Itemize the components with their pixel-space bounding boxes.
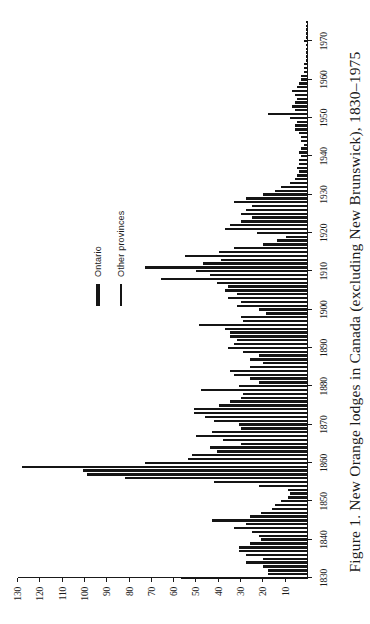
x-tick-label: 1930: [319, 185, 329, 203]
bar: [304, 63, 308, 65]
bar: [246, 209, 308, 211]
bar: [299, 159, 308, 161]
bar: [230, 335, 308, 337]
y-tick-mark: [84, 578, 85, 582]
bar: [241, 213, 308, 215]
bar: [292, 90, 308, 92]
bar: [225, 289, 308, 291]
bar: [87, 473, 308, 475]
y-tick-label: 120: [35, 587, 45, 601]
bar: [295, 109, 308, 111]
x-tick-label: 1840: [319, 531, 329, 549]
x-tick-mark: [308, 79, 312, 80]
y-tick-label: 110: [58, 587, 68, 600]
bar: [188, 458, 308, 460]
y-tick-mark: [151, 578, 152, 582]
x-tick-label: 1970: [319, 32, 329, 50]
bar: [297, 167, 308, 169]
bar: [268, 569, 308, 571]
bar: [299, 151, 308, 153]
bar: [234, 374, 308, 376]
bar: [234, 247, 308, 249]
bar: [306, 36, 308, 38]
bar: [295, 94, 308, 96]
x-tick-label: 1910: [319, 262, 329, 280]
bar: [212, 519, 308, 521]
bar: [192, 454, 308, 456]
bar: [125, 477, 308, 479]
bar: [304, 144, 308, 146]
x-tick-mark: [308, 155, 312, 156]
bar: [257, 232, 308, 234]
x-tick-mark: [308, 462, 312, 463]
bar: [234, 527, 308, 529]
x-tick-label: 1940: [319, 147, 329, 165]
bar: [214, 420, 308, 422]
bar: [301, 75, 308, 77]
legend-label-ontario: Ontario: [93, 246, 103, 277]
bar: [145, 266, 308, 268]
x-tick-mark: [308, 385, 312, 386]
bar: [268, 113, 308, 115]
x-tick-mark: [308, 424, 312, 425]
y-tick-mark: [173, 578, 174, 582]
y-tick-label: 100: [80, 587, 90, 601]
bar: [301, 155, 308, 157]
bar: [252, 205, 308, 207]
bar: [295, 178, 308, 180]
bar: [306, 25, 308, 27]
bar: [225, 228, 308, 230]
bar: [299, 163, 308, 165]
x-tick-label: 1870: [319, 416, 329, 434]
bar: [196, 270, 308, 272]
bar: [212, 431, 308, 433]
bar: [241, 427, 308, 429]
y-tick-label: 70: [147, 587, 157, 596]
x-tick-label: 1860: [319, 454, 329, 472]
y-tick-mark: [17, 578, 18, 582]
bar: [286, 236, 308, 238]
figure-caption: Figure 1. New Orange lodges in Canada (e…: [346, 0, 364, 624]
bar: [250, 542, 308, 544]
bar: [290, 117, 308, 119]
bar: [290, 492, 308, 494]
y-tick-mark: [285, 578, 286, 582]
bar: [185, 255, 308, 257]
bar: [221, 259, 308, 261]
x-tick-mark: [308, 194, 312, 195]
bar: [288, 496, 308, 498]
y-tick-label: 60: [169, 587, 179, 596]
bar: [277, 239, 308, 241]
bar: [237, 339, 308, 341]
bar: [272, 508, 308, 510]
bar: [281, 186, 308, 188]
y-tick-mark: [262, 578, 263, 582]
bar: [241, 301, 308, 303]
bar: [259, 381, 308, 383]
bar: [223, 439, 308, 441]
legend-item-other-provinces: Other provinces: [115, 156, 127, 306]
bar: [281, 500, 308, 502]
bar: [246, 561, 308, 563]
bar: [241, 220, 308, 222]
bar: [252, 531, 308, 533]
bar: [228, 285, 308, 287]
y-tick-mark: [195, 578, 196, 582]
bar: [83, 469, 308, 471]
x-tick-label: 1950: [319, 109, 329, 127]
bar: [241, 443, 308, 445]
bar: [210, 446, 308, 448]
bar: [246, 554, 308, 556]
bar: [268, 573, 308, 575]
bar: [297, 98, 308, 100]
bar: [295, 124, 308, 126]
x-tick-label: 1900: [319, 300, 329, 318]
bar: [290, 182, 308, 184]
bar: [230, 400, 308, 402]
bar: [203, 262, 308, 264]
x-tick-mark: [308, 539, 312, 540]
x-tick-mark: [308, 577, 312, 578]
y-tick-label: 130: [13, 587, 23, 601]
bar: [201, 389, 308, 391]
legend-label-other-provinces: Other provinces: [116, 210, 126, 277]
